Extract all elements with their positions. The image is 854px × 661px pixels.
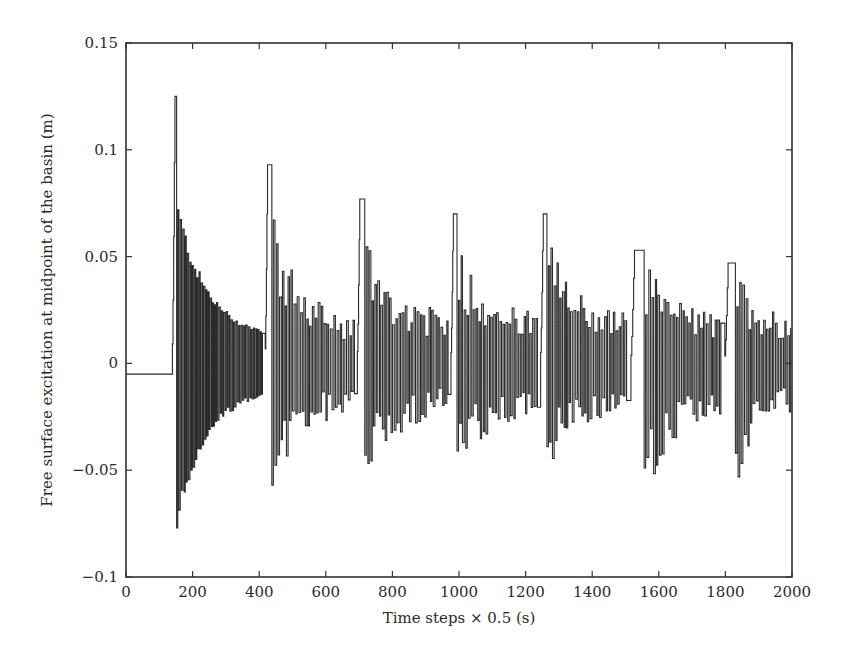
y-tick-label: 0.15: [85, 34, 118, 52]
x-tick-label: 600: [311, 583, 340, 601]
y-tick-label: −0.1: [82, 568, 118, 586]
x-tick-label: 800: [378, 583, 407, 601]
x-tick-label: 1000: [440, 583, 478, 601]
x-tick-label: 400: [245, 583, 274, 601]
y-tick-label: 0: [108, 354, 118, 372]
x-axis-label: Time steps × 0.5 (s): [383, 609, 536, 627]
y-tick-label: 0.1: [94, 141, 118, 159]
y-tick-label: −0.05: [72, 461, 118, 479]
chart: 0200400600800100012001400160018002000 −0…: [0, 0, 854, 661]
signal-line: [126, 96, 791, 527]
x-tick-label: 1600: [640, 583, 678, 601]
x-tick-label: 1200: [507, 583, 545, 601]
x-tick-label: 1400: [573, 583, 611, 601]
x-tick-label: 1800: [706, 583, 744, 601]
y-tick-label: 0.05: [85, 248, 118, 266]
y-axis-label: Free surface excitation at midpoint of t…: [38, 113, 56, 506]
x-tick-label: 200: [178, 583, 207, 601]
x-tick-label: 0: [121, 583, 131, 601]
plot-area: 0200400600800100012001400160018002000 −0…: [72, 34, 811, 601]
x-tick-label: 2000: [773, 583, 811, 601]
